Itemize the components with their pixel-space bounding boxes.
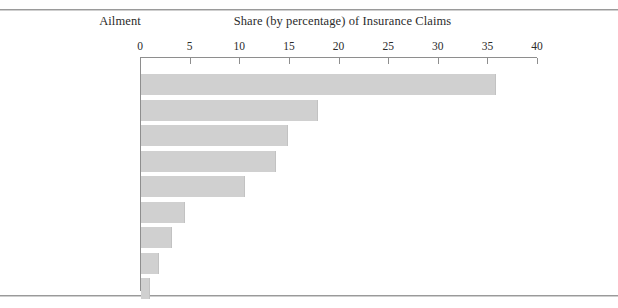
x-axis-tick-label: 20 <box>333 40 345 52</box>
x-axis-tick-label: 35 <box>482 40 494 52</box>
x-axis-tick-label: 0 <box>137 40 143 52</box>
x-axis-tick <box>438 58 439 64</box>
x-axis-tick-label: 30 <box>432 40 444 52</box>
x-axis-tick <box>537 58 538 64</box>
bar <box>141 151 276 172</box>
x-axis-tick <box>140 58 141 64</box>
x-axis-tick-label: 5 <box>187 40 193 52</box>
x-axis-tick-label: 15 <box>283 40 295 52</box>
bar <box>141 278 150 299</box>
x-axis-tick-label: 10 <box>234 40 246 52</box>
bar <box>141 227 172 248</box>
bar <box>141 176 245 197</box>
bar <box>141 253 159 274</box>
x-axis-tick <box>487 58 488 64</box>
bar <box>141 100 318 121</box>
bar <box>141 74 496 95</box>
x-axis-tick <box>388 58 389 64</box>
x-axis-tick-label: 25 <box>382 40 394 52</box>
bar <box>141 202 185 223</box>
x-axis-tick <box>339 58 340 64</box>
x-axis-tick <box>190 58 191 64</box>
bar <box>141 125 288 146</box>
bar-chart-plot: 0510152025303540 Dementia, Alzheimer'sBo… <box>0 0 618 308</box>
x-axis-tick-label: 40 <box>531 40 543 52</box>
chart-figure: Ailment Share (by percentage) of Insuran… <box>0 0 618 308</box>
x-axis-tick <box>289 58 290 64</box>
x-axis-tick <box>239 58 240 64</box>
